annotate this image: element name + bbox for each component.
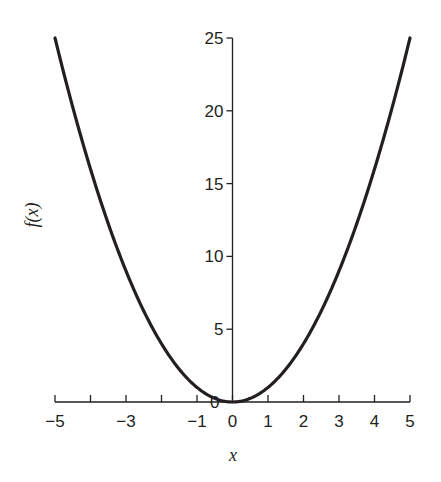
x-tick-label: 3	[334, 412, 343, 431]
x-axis-title: x	[228, 445, 237, 465]
x-tick-label: −5	[45, 412, 64, 431]
y-axis: 0510152025	[205, 29, 233, 412]
x-tick-label: 0	[228, 412, 237, 431]
y-tick-label: 10	[205, 247, 224, 266]
x-tick-label: −3	[116, 412, 135, 431]
y-tick-label: 5	[214, 320, 223, 339]
y-tick-label: 20	[205, 102, 224, 121]
x-tick-label: 5	[405, 412, 414, 431]
y-tick-label: 25	[205, 29, 224, 48]
x-tick-label: −1	[187, 412, 206, 431]
x-tick-label: 2	[299, 412, 308, 431]
y-tick-label: 15	[205, 175, 224, 194]
chart-area: −5−3−1012345 0510152025 x f(x)	[0, 0, 441, 482]
y-axis-title: f(x)	[22, 203, 43, 228]
x-tick-label: 4	[370, 412, 379, 431]
x-tick-label: 1	[263, 412, 272, 431]
